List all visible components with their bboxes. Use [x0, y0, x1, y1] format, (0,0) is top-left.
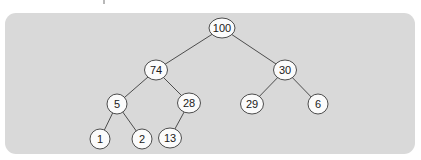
tree-node-value: 100	[213, 22, 231, 34]
tree-node-28: 28	[178, 93, 201, 113]
tree-node-2: 2	[132, 129, 152, 149]
tree-node-value: 1	[97, 133, 103, 145]
figure-screen: 10074305282961213	[0, 0, 421, 160]
tree-node-100: 100	[209, 18, 235, 38]
tree-node-5: 5	[107, 94, 127, 114]
tree-node-value: 2	[139, 133, 145, 145]
tree-node-74: 74	[145, 60, 168, 80]
tree-node-6: 6	[308, 94, 328, 114]
tree-node-value: 28	[183, 97, 195, 109]
binary-tree-svg: 10074305282961213	[0, 0, 421, 160]
tree-node-30: 30	[274, 60, 297, 80]
tree-node-value: 30	[279, 64, 291, 76]
tree-node-29: 29	[241, 94, 264, 114]
tree-nodes-layer: 10074305282961213	[90, 18, 328, 149]
tree-node-13: 13	[159, 128, 182, 148]
tree-node-value: 29	[246, 98, 258, 110]
tree-node-value: 74	[150, 64, 162, 76]
tree-node-value: 5	[114, 98, 120, 110]
tree-node-value: 6	[315, 98, 321, 110]
tree-edges-layer	[100, 28, 318, 139]
tree-node-1: 1	[90, 129, 110, 149]
tree-node-value: 13	[164, 132, 176, 144]
